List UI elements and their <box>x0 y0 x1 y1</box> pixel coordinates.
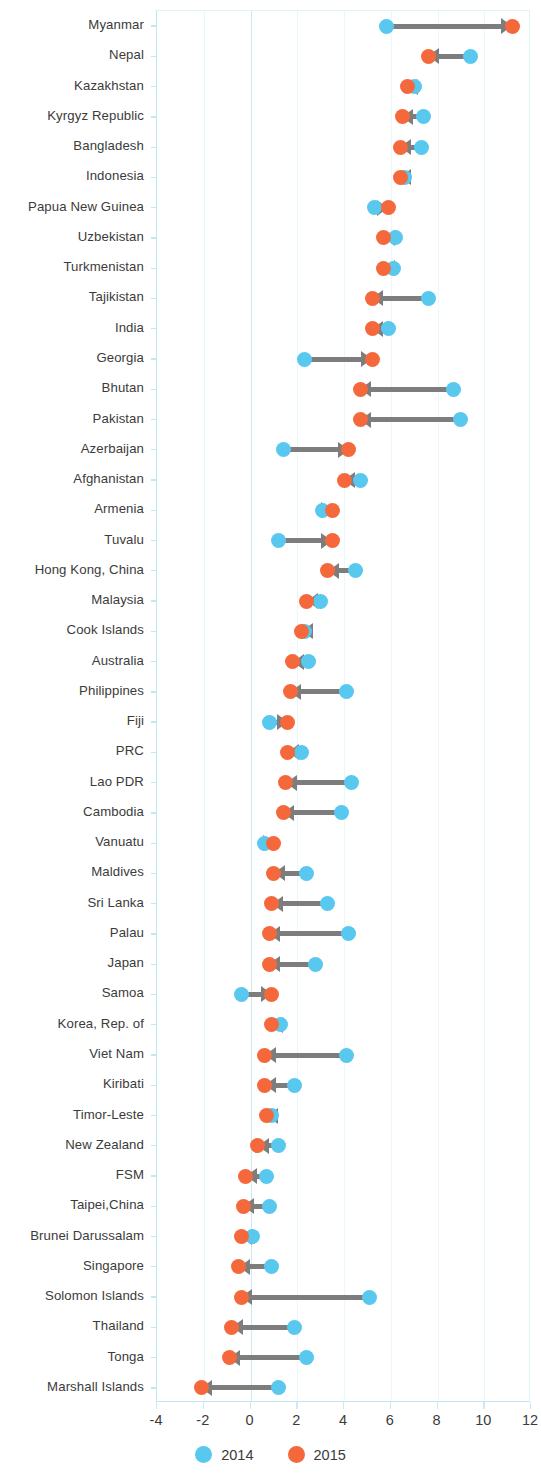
y-axis-tick <box>151 1327 157 1328</box>
y-axis-tick <box>151 540 157 541</box>
x-axis-tick-label: 12 <box>510 1409 541 1431</box>
data-point-2014 <box>344 775 359 790</box>
y-axis-label: Cambodia <box>0 805 148 819</box>
data-point-2014 <box>334 805 349 820</box>
data-point-2014 <box>320 896 335 911</box>
y-axis-tick <box>151 933 157 934</box>
y-axis-tick <box>151 782 157 783</box>
y-axis-label: FSM <box>0 1168 148 1182</box>
data-point-2015 <box>262 957 277 972</box>
y-axis-tick <box>151 661 157 662</box>
x-axis-tick <box>156 1402 157 1409</box>
change-connector <box>271 1053 347 1058</box>
y-axis-label: Hong Kong, China <box>0 563 148 577</box>
y-axis-tick <box>151 1236 157 1237</box>
data-point-2015 <box>264 987 279 1002</box>
data-point-2014 <box>313 594 328 609</box>
y-axis-tick <box>151 449 157 450</box>
y-axis-tick <box>151 298 157 299</box>
legend-swatch-2014 <box>195 1446 212 1463</box>
y-axis-label: Taipei,China <box>0 1198 148 1212</box>
x-axis-tick <box>203 1402 204 1409</box>
y-axis-label: Lao PDR <box>0 775 148 789</box>
y-axis-tick <box>151 691 157 692</box>
data-point-2014 <box>341 926 356 941</box>
y-axis-tick <box>151 600 157 601</box>
data-point-2014 <box>271 533 286 548</box>
x-axis-tick <box>250 1402 251 1409</box>
x-axis-tick-label: -2 <box>183 1409 223 1431</box>
data-point-2014 <box>264 1259 279 1274</box>
change-connector <box>366 387 453 392</box>
x-axis-tick <box>343 1402 344 1409</box>
data-point-2014 <box>276 442 291 457</box>
y-axis-label: Japan <box>0 956 148 970</box>
data-point-2015 <box>325 533 340 548</box>
y-axis-tick <box>151 812 157 813</box>
y-axis-tick <box>151 1357 157 1358</box>
x-axis-tick-label: 4 <box>323 1409 363 1431</box>
data-point-2014 <box>308 957 323 972</box>
data-point-2015 <box>365 291 380 306</box>
y-axis-label: Palau <box>0 926 148 940</box>
y-axis-label: Samoa <box>0 986 148 1000</box>
data-point-2015 <box>505 19 520 34</box>
legend-item-2014: 2014 <box>195 1446 253 1463</box>
y-axis-tick <box>151 510 157 511</box>
y-axis-label: Cook Islands <box>0 623 148 637</box>
data-point-2014 <box>416 109 431 124</box>
y-axis-label: Tonga <box>0 1350 148 1364</box>
x-axis-tick-label: 2 <box>276 1409 316 1431</box>
data-point-2014 <box>463 49 478 64</box>
y-axis-label: Bangladesh <box>0 139 148 153</box>
y-axis-tick <box>151 86 157 87</box>
y-axis-label: Australia <box>0 654 148 668</box>
y-axis-label: Afghanistan <box>0 472 148 486</box>
change-connector <box>292 780 351 785</box>
y-axis-tick <box>151 268 157 269</box>
x-axis-tick <box>296 1402 297 1409</box>
data-point-2014 <box>287 1320 302 1335</box>
y-axis-label: Georgia <box>0 351 148 365</box>
data-point-2014 <box>287 1078 302 1093</box>
data-point-2014 <box>367 200 382 215</box>
y-axis-label: Tajikistan <box>0 290 148 304</box>
data-point-2015 <box>381 200 396 215</box>
y-axis-label: Nepal <box>0 48 148 62</box>
data-point-2014 <box>299 866 314 881</box>
y-axis-tick <box>151 1206 157 1207</box>
chart-legend: 20142015 <box>0 1446 541 1463</box>
y-axis-tick <box>151 903 157 904</box>
y-axis-tick <box>151 25 157 26</box>
y-axis-tick <box>151 752 157 753</box>
data-point-2014 <box>259 1169 274 1184</box>
x-axis-tick-label: 6 <box>370 1409 410 1431</box>
change-connector <box>247 1295 370 1300</box>
change-connector <box>366 417 460 422</box>
y-axis-tick <box>151 237 157 238</box>
data-point-2015 <box>299 594 314 609</box>
y-axis-tick <box>151 1387 157 1388</box>
data-point-2015 <box>393 140 408 155</box>
data-point-2014 <box>421 291 436 306</box>
y-axis-label: Fiji <box>0 714 148 728</box>
y-axis-label: Philippines <box>0 684 148 698</box>
data-point-2014 <box>362 1290 377 1305</box>
data-point-2015 <box>257 1048 272 1063</box>
data-point-2015 <box>365 352 380 367</box>
y-axis-label: Kazakhstan <box>0 79 148 93</box>
data-point-2015 <box>234 1229 249 1244</box>
y-axis-label: New Zealand <box>0 1138 148 1152</box>
data-point-2015 <box>257 1078 272 1093</box>
data-point-2014 <box>381 321 396 336</box>
change-connector <box>238 1325 295 1330</box>
data-point-2015 <box>353 382 368 397</box>
data-point-2014 <box>294 745 309 760</box>
y-axis-tick <box>151 56 157 57</box>
legend-label: 2014 <box>221 1447 253 1463</box>
y-axis-tick <box>151 147 157 148</box>
y-axis-label: Timor-Leste <box>0 1108 148 1122</box>
data-point-2014 <box>453 412 468 427</box>
y-axis-tick <box>151 328 157 329</box>
data-point-2015 <box>280 715 295 730</box>
